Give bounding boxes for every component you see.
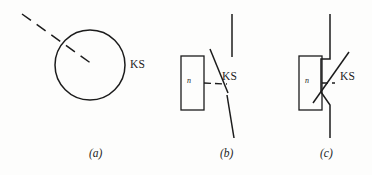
coil-rectangle — [181, 56, 204, 110]
circle-body — [55, 30, 125, 100]
ks-label-b: KS — [222, 70, 237, 82]
coil-symbol-b: n — [187, 76, 191, 85]
schematic-canvas — [0, 0, 372, 175]
coil-rectangle — [299, 56, 322, 110]
schematic-figure: KS KS KS n n (a) (b) (c) — [0, 0, 372, 175]
subfigure-caption-b: (b) — [220, 147, 233, 159]
subfigure-caption-a: (a) — [89, 147, 102, 159]
subfigure-a — [22, 14, 125, 100]
actuating-arm — [22, 14, 92, 64]
coil-symbol-c: n — [305, 76, 309, 85]
lower-terminal-lead — [227, 95, 234, 138]
subfigure-caption-c: (c) — [320, 147, 333, 159]
ks-label-c: KS — [340, 70, 355, 82]
ks-label-a: KS — [130, 58, 145, 70]
